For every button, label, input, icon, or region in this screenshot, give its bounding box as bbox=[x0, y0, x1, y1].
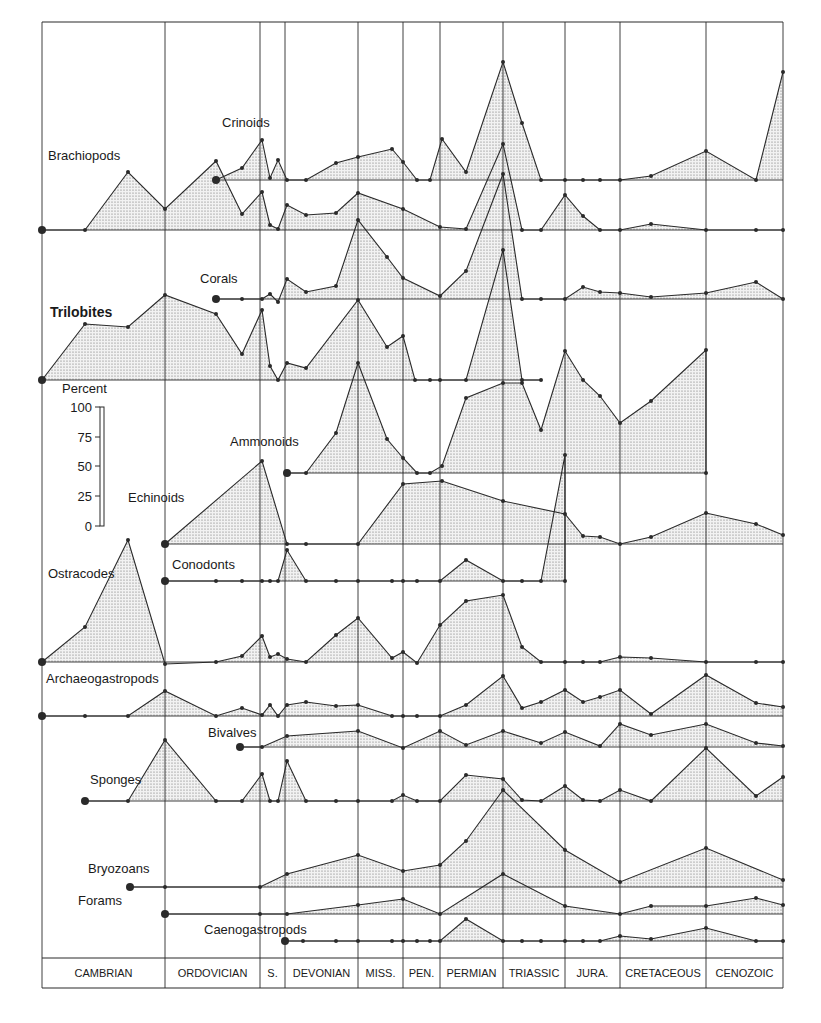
series-start-marker bbox=[38, 658, 46, 666]
data-point bbox=[260, 190, 264, 194]
data-point bbox=[563, 193, 567, 197]
series-label: Conodonts bbox=[172, 557, 235, 572]
data-point bbox=[704, 511, 708, 515]
series-label: Bivalves bbox=[208, 725, 257, 740]
data-point bbox=[781, 228, 785, 232]
data-point bbox=[356, 361, 360, 365]
data-point bbox=[539, 700, 543, 704]
data-point bbox=[301, 939, 305, 943]
data-point bbox=[438, 863, 442, 867]
series-label: Echinoids bbox=[128, 490, 185, 505]
data-point bbox=[520, 706, 524, 710]
scale-tick-label: 50 bbox=[78, 459, 92, 474]
data-point bbox=[163, 662, 167, 666]
data-point bbox=[501, 172, 505, 176]
data-point bbox=[598, 939, 602, 943]
data-point bbox=[501, 381, 505, 385]
data-point bbox=[438, 579, 442, 583]
data-point bbox=[520, 579, 524, 583]
data-point bbox=[754, 701, 758, 705]
data-point bbox=[598, 695, 602, 699]
data-point bbox=[649, 904, 653, 908]
data-point bbox=[401, 579, 405, 583]
data-point bbox=[704, 149, 708, 153]
data-point bbox=[649, 222, 653, 226]
data-point bbox=[214, 714, 218, 718]
series-start-marker bbox=[126, 883, 134, 891]
scale-bar bbox=[100, 407, 104, 526]
data-point bbox=[438, 378, 442, 382]
data-point bbox=[428, 378, 432, 382]
data-point bbox=[260, 772, 264, 776]
data-point bbox=[781, 878, 785, 882]
data-point bbox=[520, 121, 524, 125]
data-point bbox=[356, 298, 360, 302]
data-point bbox=[598, 744, 602, 748]
data-point bbox=[268, 703, 272, 707]
series-area bbox=[42, 540, 783, 664]
data-point bbox=[126, 714, 130, 718]
data-point bbox=[539, 799, 543, 803]
data-point bbox=[163, 207, 167, 211]
data-point bbox=[520, 798, 524, 802]
series-area bbox=[240, 724, 783, 748]
data-point bbox=[539, 579, 543, 583]
series-start-marker bbox=[38, 712, 46, 720]
data-point bbox=[268, 799, 272, 803]
data-point bbox=[401, 869, 405, 873]
data-point bbox=[285, 912, 289, 916]
data-point bbox=[401, 746, 405, 750]
data-point bbox=[356, 939, 360, 943]
data-point bbox=[438, 939, 442, 943]
data-point bbox=[781, 744, 785, 748]
data-point bbox=[334, 633, 338, 637]
data-point bbox=[390, 579, 394, 583]
data-point bbox=[501, 777, 505, 781]
data-point bbox=[501, 142, 505, 146]
series-area bbox=[165, 461, 783, 544]
data-point bbox=[464, 773, 468, 777]
data-point bbox=[304, 178, 308, 182]
data-point bbox=[356, 155, 360, 159]
data-point bbox=[401, 160, 405, 164]
data-point bbox=[260, 579, 264, 583]
data-point bbox=[163, 689, 167, 693]
data-point bbox=[276, 652, 280, 656]
data-point bbox=[704, 846, 708, 850]
data-point bbox=[581, 378, 585, 382]
data-point bbox=[304, 799, 308, 803]
data-point bbox=[539, 228, 543, 232]
data-point bbox=[304, 660, 308, 664]
data-point bbox=[304, 700, 308, 704]
data-point bbox=[260, 297, 264, 301]
data-point bbox=[563, 178, 567, 182]
data-point bbox=[781, 939, 785, 943]
data-point bbox=[260, 459, 264, 463]
data-point bbox=[285, 548, 289, 552]
data-point bbox=[428, 178, 432, 182]
data-point bbox=[581, 534, 585, 538]
data-point bbox=[356, 542, 360, 546]
scale-tick-label: 0 bbox=[85, 519, 92, 534]
period-label: PERMIAN bbox=[446, 967, 496, 979]
data-point bbox=[464, 599, 468, 603]
data-point bbox=[415, 714, 419, 718]
data-point bbox=[438, 729, 442, 733]
data-point bbox=[356, 799, 360, 803]
data-point bbox=[428, 471, 432, 475]
data-point bbox=[390, 799, 394, 803]
data-point bbox=[285, 203, 289, 207]
data-point bbox=[401, 482, 405, 486]
data-point bbox=[563, 579, 567, 583]
data-point bbox=[581, 660, 585, 664]
data-point bbox=[240, 579, 244, 583]
data-point bbox=[618, 912, 622, 916]
data-point bbox=[268, 364, 272, 368]
data-point bbox=[781, 660, 785, 664]
series-start-marker bbox=[161, 910, 169, 918]
data-point bbox=[598, 228, 602, 232]
fossil-abundance-chart: CrinoidsBrachiopodsCoralsTrilobitesAmmon… bbox=[0, 0, 821, 1023]
data-point bbox=[704, 722, 708, 726]
series-start-marker bbox=[212, 295, 220, 303]
data-point bbox=[260, 634, 264, 638]
